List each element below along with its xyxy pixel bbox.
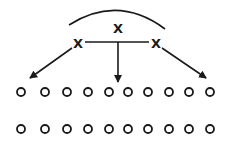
circle-node <box>185 88 193 96</box>
circle-node <box>41 125 49 133</box>
circle-node <box>124 125 132 133</box>
circle-node <box>206 88 214 96</box>
circle-node <box>84 125 92 133</box>
arrow-0 <box>30 48 72 78</box>
circle-node <box>144 88 152 96</box>
circle-node <box>63 125 71 133</box>
circle-node <box>165 88 173 96</box>
node-left: X <box>73 36 83 51</box>
node-right: X <box>151 36 161 51</box>
circle-node <box>41 88 49 96</box>
circle-node <box>206 125 214 133</box>
circle-node <box>165 125 173 133</box>
circle-node <box>17 88 25 96</box>
circle-node <box>124 88 132 96</box>
arrows <box>30 42 206 82</box>
circle-node <box>105 125 113 133</box>
circle-rows <box>17 88 214 133</box>
circle-node <box>144 125 152 133</box>
circle-node <box>63 88 71 96</box>
circle-node <box>84 88 92 96</box>
circle-node <box>17 125 25 133</box>
circle-node <box>185 125 193 133</box>
diagram-canvas: X X X <box>0 0 227 145</box>
circle-node <box>105 88 113 96</box>
node-top: X <box>113 21 123 36</box>
arrow-2 <box>162 48 206 78</box>
